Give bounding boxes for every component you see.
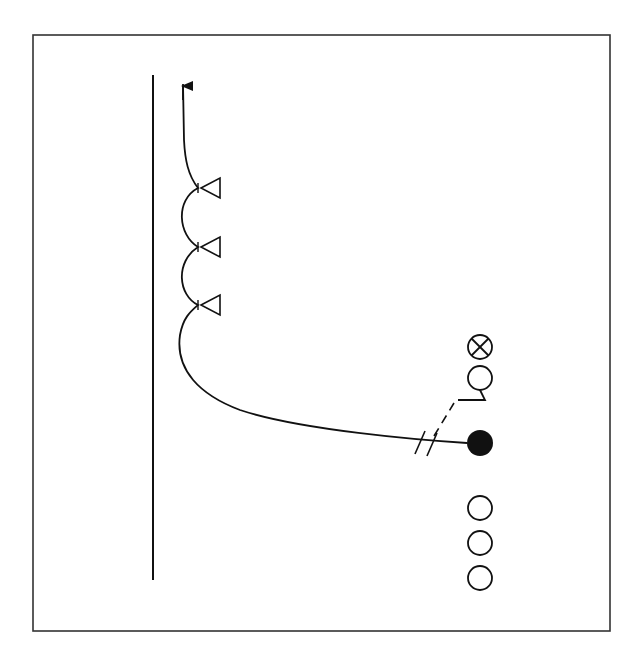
dribble-hash-mark-1 bbox=[415, 431, 425, 454]
player-circle-icon bbox=[468, 566, 492, 590]
player-x-icon bbox=[468, 335, 492, 359]
cone-icon bbox=[198, 178, 220, 198]
diagram-frame bbox=[33, 35, 610, 631]
player-circle-icon bbox=[468, 496, 492, 520]
ball-carrier-icon bbox=[467, 430, 493, 456]
dribble-hash-mark-2 bbox=[427, 433, 437, 456]
cone-icon bbox=[198, 295, 220, 315]
player-circle-icon bbox=[458, 366, 492, 400]
dribble-route-path bbox=[179, 84, 467, 443]
player-circle-icon bbox=[468, 531, 492, 555]
play-diagram bbox=[0, 0, 643, 656]
pass-dashed-line bbox=[434, 403, 454, 436]
cone-icon bbox=[198, 237, 220, 257]
